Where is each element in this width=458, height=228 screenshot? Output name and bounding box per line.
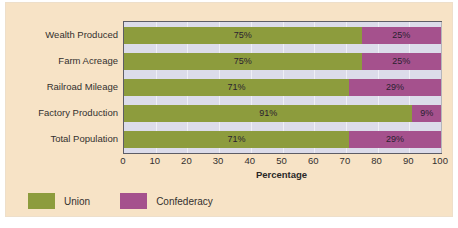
legend-spacer (90, 201, 120, 202)
plot-area: 75%25%75%25%71%29%91%9%71%29% (123, 21, 442, 154)
x-tick-label: 0 (120, 155, 125, 166)
category-label: Wealth Produced (14, 26, 118, 43)
legend-item-union[interactable]: Union (28, 193, 90, 209)
legend-swatch-icon (120, 193, 147, 209)
bar-value-label: 25% (392, 57, 410, 66)
category-axis-labels: Wealth ProducedFarm AcreageRailroad Mile… (14, 21, 118, 152)
x-tick-label: 50 (276, 155, 287, 166)
x-tick-label: 20 (181, 155, 192, 166)
x-tick-label: 80 (371, 155, 382, 166)
bar-value-label: 29% (386, 135, 404, 144)
bar-row: 91%9% (124, 105, 441, 122)
bar-value-label: 25% (392, 31, 410, 40)
bar-segment-confederacy: 29% (349, 131, 441, 148)
bar-value-label: 75% (234, 57, 252, 66)
legend-item-confederacy[interactable]: Confederacy (120, 193, 213, 209)
bar-segment-confederacy: 29% (349, 79, 441, 96)
bar-series-group: 75%25%75%25%71%29%91%9%71%29% (124, 22, 441, 153)
category-label: Total Population (14, 130, 118, 147)
x-tick-label: 70 (340, 155, 351, 166)
chart-figure: Wealth ProducedFarm AcreageRailroad Mile… (0, 0, 458, 228)
category-label: Railroad Mileage (14, 78, 118, 95)
category-label: Factory Production (14, 104, 118, 121)
bar-value-label: 91% (259, 109, 277, 118)
bar-segment-confederacy: 25% (362, 27, 441, 44)
x-axis-ticks: 0102030405060708090100 (123, 155, 442, 169)
bar-segment-confederacy: 9% (412, 105, 441, 122)
bar-value-label: 29% (386, 83, 404, 92)
bar-value-label: 75% (234, 31, 252, 40)
x-tick-label: 10 (149, 155, 160, 166)
x-tick-label: 100 (432, 155, 448, 166)
bar-segment-union: 75% (124, 27, 362, 44)
bar-segment-union: 71% (124, 131, 349, 148)
x-tick-label: 40 (245, 155, 256, 166)
category-label: Farm Acreage (14, 52, 118, 69)
x-tick-label: 90 (403, 155, 414, 166)
bar-segment-union: 71% (124, 79, 349, 96)
legend-label: Confederacy (156, 196, 213, 207)
bar-row: 75%25% (124, 27, 441, 44)
chart-card: Wealth ProducedFarm AcreageRailroad Mile… (6, 3, 452, 216)
bar-segment-union: 75% (124, 53, 362, 70)
bar-value-label: 71% (228, 135, 246, 144)
bar-row: 71%29% (124, 131, 441, 148)
gridline (441, 22, 442, 153)
legend-swatch-icon (28, 193, 55, 209)
chart-legend: UnionConfederacy (28, 192, 213, 210)
bar-value-label: 9% (420, 109, 433, 118)
x-tick-label: 30 (213, 155, 224, 166)
bar-value-label: 71% (228, 83, 246, 92)
bar-row: 75%25% (124, 53, 441, 70)
legend-label: Union (64, 196, 90, 207)
x-axis-title: Percentage (123, 169, 440, 180)
bar-row: 71%29% (124, 79, 441, 96)
x-tick-label: 60 (308, 155, 319, 166)
bar-segment-union: 91% (124, 105, 412, 122)
bar-segment-confederacy: 25% (362, 53, 441, 70)
